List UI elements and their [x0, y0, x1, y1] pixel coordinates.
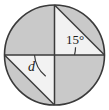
angle-label-15-degrees: 15° — [66, 33, 84, 46]
circle-diagram-svg — [0, 0, 109, 110]
geometry-figure: 15° d — [0, 0, 109, 110]
angle-label-d: d — [28, 60, 35, 74]
